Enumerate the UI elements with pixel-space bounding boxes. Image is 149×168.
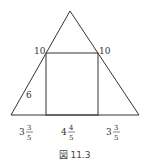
svg-text:3: 3 [27, 124, 31, 132]
figure-caption: 図 11.3 [0, 148, 149, 161]
svg-text:3: 3 [114, 124, 118, 132]
label-lower-left-side: 6 [26, 90, 32, 100]
svg-text:5: 5 [69, 134, 73, 142]
label-base-right: 3 3 5 [106, 124, 120, 142]
svg-text:3: 3 [106, 127, 112, 137]
inscribed-square [46, 53, 98, 115]
label-base-middle: 4 4 5 [61, 124, 75, 142]
label-top-right-side: 10 [99, 46, 111, 56]
svg-text:5: 5 [114, 134, 118, 142]
label-base-left: 3 3 5 [19, 124, 33, 142]
svg-text:5: 5 [27, 134, 31, 142]
svg-text:4: 4 [69, 124, 74, 132]
svg-text:3: 3 [19, 127, 25, 137]
svg-text:4: 4 [61, 127, 67, 137]
triangle-square-diagram: 10 10 6 3 3 5 4 4 5 3 3 5 [0, 0, 149, 168]
label-top-left-side: 10 [34, 46, 46, 56]
